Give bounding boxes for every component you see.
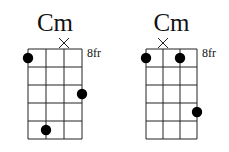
fret-position-label: 8fr (87, 46, 101, 60)
finger-dot (192, 107, 202, 117)
finger-dot (41, 125, 51, 135)
fretboard-grid (146, 49, 197, 139)
chord-name: Cm (153, 9, 190, 36)
finger-dot (23, 53, 33, 63)
muted-string-x-icon (158, 38, 168, 48)
finger-dot (141, 53, 151, 63)
chord-diagram-2: Cm8fr (141, 9, 216, 139)
chord-diagram-1: Cm8fr (23, 9, 101, 139)
fretboard-grid (28, 49, 82, 139)
muted-string-x-icon (59, 38, 69, 48)
chord-name: Cm (37, 9, 74, 36)
finger-dot (77, 89, 87, 99)
chord-diagrams: Cm8frCm8fr (0, 0, 229, 152)
fret-position-label: 8fr (202, 46, 216, 60)
finger-dot (175, 53, 185, 63)
